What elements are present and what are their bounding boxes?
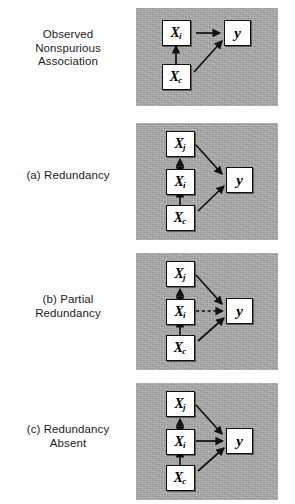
node-xc: Xc — [166, 465, 195, 491]
node-xc: Xc — [166, 205, 195, 231]
edge-xj-to-y — [196, 405, 222, 434]
node-xj-subscript: j — [183, 273, 186, 282]
edge-xc-to-y — [198, 448, 224, 471]
node-xi-subscript: i — [183, 311, 186, 320]
row-label-line: Nonspurious — [4, 42, 132, 56]
node-xi-subscript: i — [183, 441, 186, 450]
row-label-line: (a) Redundancy — [4, 169, 132, 183]
node-xj-subscript: j — [183, 403, 186, 412]
node-xc: Xc — [166, 335, 195, 361]
diagram-panel-redundancy: Xj Xi Xc y — [136, 123, 278, 240]
row-label-partial-redundancy: (b) Partial Redundancy — [4, 293, 132, 320]
node-xc-subscript: c — [178, 76, 182, 85]
node-xc-subscript: c — [182, 347, 186, 356]
node-y: y — [226, 298, 253, 324]
path-diagram-figure: Observed Nonspurious Association — [0, 0, 295, 504]
row-label-line: Association — [4, 55, 132, 69]
node-xc: Xc — [162, 64, 191, 90]
node-xi: Xi — [166, 169, 195, 195]
row-label-redundancy-absent: (c) Redundancy Absent — [4, 423, 132, 450]
edge-xc-to-y — [194, 41, 222, 72]
node-xj: Xj — [166, 391, 195, 417]
edge-xc-to-y — [198, 318, 224, 341]
row-label-line: Absent — [4, 437, 132, 451]
row-label-line: Redundancy — [4, 307, 132, 321]
row-label-line: (c) Redundancy — [4, 423, 132, 437]
edge-xj-to-y — [196, 145, 222, 174]
node-xi: Xi — [166, 429, 195, 455]
node-xc-subscript: c — [182, 477, 186, 486]
node-xj-subscript: j — [183, 143, 186, 152]
edge-layer — [136, 123, 278, 240]
node-xi: Xi — [162, 20, 191, 46]
node-y-base: y — [236, 173, 243, 188]
node-y: y — [226, 167, 253, 193]
node-y: y — [224, 20, 251, 46]
row-label-observed-nonspurious-association: Observed Nonspurious Association — [4, 28, 132, 69]
edge-layer — [136, 383, 278, 500]
node-xi-subscript: i — [183, 181, 186, 190]
node-xc-subscript: c — [182, 217, 186, 226]
row-label-line: (b) Partial — [4, 293, 132, 307]
node-xj: Xj — [166, 261, 195, 287]
node-xj: Xj — [166, 131, 195, 157]
node-y: y — [226, 428, 253, 454]
edge-xc-to-y — [198, 186, 224, 211]
diagram-panel-observed-nonspurious-association: Xi Xc y — [136, 8, 278, 106]
figure-row-redundancy-absent: (c) Redundancy Absent Xj — [0, 383, 295, 501]
diagram-panel-redundancy-absent: Xj Xi Xc y — [136, 383, 278, 500]
row-label-line: Observed — [4, 28, 132, 42]
figure-row-redundancy: (a) Redundancy Xj — [0, 123, 295, 241]
edge-xj-to-y — [196, 275, 222, 304]
node-xi-subscript: i — [179, 32, 182, 41]
figure-row-partial-redundancy: (b) Partial Redundancy Xj — [0, 253, 295, 371]
row-label-redundancy: (a) Redundancy — [4, 169, 132, 183]
figure-row-observed-nonspurious-association: Observed Nonspurious Association — [0, 8, 295, 108]
node-xi: Xi — [166, 299, 195, 325]
node-y-base: y — [234, 26, 241, 41]
node-y-base: y — [236, 304, 243, 319]
edge-layer — [136, 8, 278, 106]
diagram-panel-partial-redundancy: Xj Xi Xc y — [136, 253, 278, 370]
edge-layer — [136, 253, 278, 370]
node-y-base: y — [236, 434, 243, 449]
